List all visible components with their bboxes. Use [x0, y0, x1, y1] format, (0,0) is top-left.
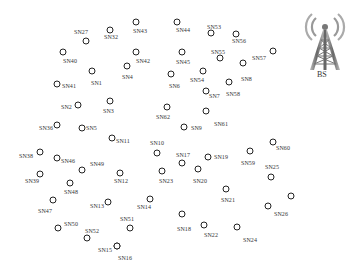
sensor-node-label: SN6 — [169, 83, 180, 89]
sensor-node-label: SN61 — [214, 121, 228, 127]
sensor-node-icon — [124, 63, 131, 70]
sensor-node-icon — [107, 27, 114, 34]
sensor-node-icon — [89, 68, 96, 75]
sensor-node-label: SN40 — [63, 58, 77, 64]
sensor-node-icon — [179, 160, 186, 167]
sensor-node-label: SN10 — [150, 140, 164, 146]
sensor-node-icon — [247, 148, 254, 155]
sensor-node-label: SN18 — [177, 226, 191, 232]
sensor-node-label: SN58 — [226, 91, 240, 97]
sensor-node-icon — [205, 154, 212, 161]
sensor-node-icon — [223, 186, 230, 193]
sensor-node-icon — [208, 30, 215, 37]
sensor-node-icon — [288, 193, 295, 200]
sensor-node-icon — [168, 71, 175, 78]
sensor-node-icon — [179, 211, 186, 218]
sensor-node-label: SN59 — [241, 160, 255, 166]
sensor-node-icon — [83, 38, 90, 45]
sensor-node-label: SN32 — [104, 34, 118, 40]
sensor-node-icon — [50, 197, 57, 204]
sensor-node-label: SN20 — [193, 178, 207, 184]
sensor-node-label: SN51 — [120, 216, 134, 222]
sensor-node-label: SN55 — [211, 49, 225, 55]
sensor-node-label: SN41 — [62, 83, 76, 89]
network-diagram: SN27SN32SN43SN44SN53SN56SN40SN42SN45SN55… — [0, 0, 361, 274]
sensor-node-icon — [174, 19, 181, 26]
sensor-node-label: SN19 — [214, 154, 228, 160]
sensor-node-icon — [179, 49, 186, 56]
sensor-node-label: SN52 — [85, 228, 99, 234]
sensor-node-label: SN50 — [64, 221, 78, 227]
sensor-node-icon — [75, 102, 82, 109]
sensor-node-icon — [203, 108, 210, 115]
sensor-node-icon — [164, 104, 171, 111]
sensor-node-label: SN8 — [241, 76, 252, 82]
sensor-node-label: SN3 — [103, 108, 114, 114]
sensor-node-label: SN9 — [191, 125, 202, 131]
sensor-node-icon — [105, 199, 112, 206]
sensor-node-icon — [107, 98, 114, 105]
sensor-node-icon — [226, 79, 233, 86]
sensor-node-icon — [265, 203, 272, 210]
sensor-node-icon — [234, 224, 241, 231]
sensor-node-label: SN27 — [74, 29, 88, 35]
sensor-node-label: SN4 — [122, 74, 133, 80]
sensor-node-icon — [147, 196, 154, 203]
sensor-node-label: SN11 — [116, 138, 130, 144]
sensor-node-label: SN26 — [274, 211, 288, 217]
sensor-node-icon — [67, 180, 74, 187]
base-station-label: BS — [317, 70, 327, 79]
sensor-node-label: SN44 — [176, 27, 190, 33]
sensor-node-icon — [60, 49, 67, 56]
sensor-node-label: SN56 — [232, 38, 246, 44]
sensor-node-label: SN12 — [114, 178, 128, 184]
sensor-node-label: SN16 — [118, 255, 132, 261]
sensor-node-icon — [270, 48, 277, 55]
sensor-node-label: SN17 — [176, 152, 190, 158]
sensor-node-icon — [133, 19, 140, 26]
sensor-node-icon — [181, 124, 188, 131]
sensor-node-label: SN45 — [176, 59, 190, 65]
sensor-node-label: SN60 — [276, 145, 290, 151]
sensor-node-icon — [195, 166, 202, 173]
sensor-node-icon — [127, 225, 134, 232]
sensor-node-icon — [117, 170, 124, 177]
sensor-node-label: SN22 — [204, 232, 218, 238]
sensor-node-label: SN2 — [61, 104, 72, 110]
sensor-node-icon — [37, 171, 44, 178]
sensor-node-icon — [54, 81, 61, 88]
sensor-node-icon — [217, 55, 224, 62]
sensor-node-label: SN7 — [209, 93, 220, 99]
sensor-node-icon — [201, 222, 208, 229]
sensor-node-label: SN48 — [64, 189, 78, 195]
sensor-node-label: SN46 — [61, 158, 75, 164]
sensor-node-label: SN42 — [136, 58, 150, 64]
sensor-node-label: SN14 — [137, 204, 151, 210]
sensor-node-label: SN15 — [98, 247, 112, 253]
sensor-node-label: SN1 — [91, 80, 102, 86]
sensor-node-icon — [54, 122, 61, 129]
sensor-node-icon — [159, 168, 166, 175]
sensor-node-label: SN54 — [190, 77, 204, 83]
sensor-node-label: SN23 — [159, 178, 173, 184]
sensor-node-icon — [84, 235, 91, 242]
sensor-node-label: SN49 — [90, 161, 104, 167]
sensor-node-label: SN5 — [86, 125, 97, 131]
sensor-node-label: SN24 — [243, 237, 257, 243]
sensor-node-icon — [133, 49, 140, 56]
sensor-node-icon — [154, 150, 161, 157]
sensor-node-label: SN36 — [39, 125, 53, 131]
sensor-node-label: SN43 — [133, 28, 147, 34]
sensor-node-label: SN57 — [252, 55, 266, 61]
sensor-node-icon — [54, 155, 61, 162]
sensor-node-icon — [109, 135, 116, 142]
sensor-node-icon — [268, 174, 275, 181]
sensor-node-icon — [233, 31, 240, 38]
sensor-node-icon — [200, 68, 207, 75]
sensor-node-label: SN47 — [38, 208, 52, 214]
sensor-node-label: SN62 — [156, 114, 170, 120]
sensor-node-label: SN13 — [90, 203, 104, 209]
sensor-node-label: SN38 — [19, 153, 33, 159]
sensor-node-icon — [240, 60, 247, 67]
sensor-node-icon — [37, 149, 44, 156]
